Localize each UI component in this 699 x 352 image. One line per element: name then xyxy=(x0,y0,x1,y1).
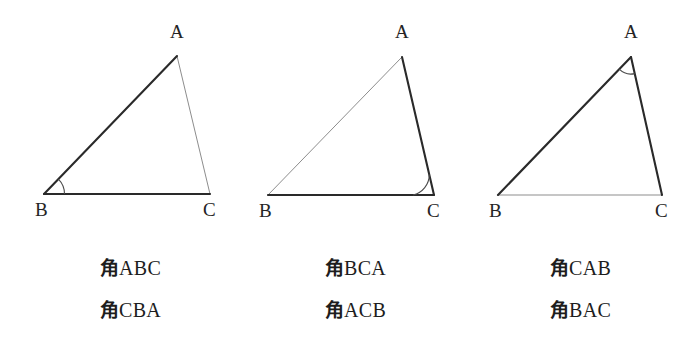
kaku-character: 角 xyxy=(550,299,569,321)
angle-arc-c xyxy=(413,175,429,196)
kaku-character: 角 xyxy=(100,299,119,321)
vertex-label-a: A xyxy=(170,22,184,41)
kaku-character: 角 xyxy=(550,257,569,279)
side-ac-thin xyxy=(177,56,210,194)
vertex-label-c: C xyxy=(203,200,216,219)
caption-angle-acb: 角ACB xyxy=(325,300,386,320)
vertex-label-b: B xyxy=(35,200,48,219)
angle-arc-a xyxy=(619,69,635,74)
triangle-angle-b xyxy=(0,0,233,230)
caption-letters: ABC xyxy=(119,257,161,279)
triangle-angle-a xyxy=(466,0,699,230)
vertex-label-a: A xyxy=(624,22,638,41)
caption-letters: ACB xyxy=(344,299,386,321)
caption-letters: CAB xyxy=(569,257,611,279)
vertex-label-c: C xyxy=(427,201,440,220)
caption-angle-cba: 角CBA xyxy=(100,300,161,320)
side-ac-thick xyxy=(631,57,662,195)
caption-letters: CBA xyxy=(119,299,161,321)
vertex-label-b: B xyxy=(259,201,272,220)
angle-naming-figure: A B C A B C A B C xyxy=(0,0,699,352)
caption-letters: BCA xyxy=(344,257,386,279)
caption-angle-cab: 角CAB xyxy=(550,258,611,278)
kaku-character: 角 xyxy=(325,257,344,279)
vertex-label-b: B xyxy=(489,201,502,220)
side-ba-thick xyxy=(44,56,177,194)
side-ab-thick xyxy=(498,57,631,195)
caption-angle-bac: 角BAC xyxy=(550,300,611,320)
vertex-label-a: A xyxy=(395,22,409,41)
caption-angle-abc: 角ABC xyxy=(100,258,161,278)
caption-angle-bca: 角BCA xyxy=(325,258,386,278)
side-ab-thin xyxy=(268,57,402,195)
caption-letters: BAC xyxy=(569,299,611,321)
kaku-character: 角 xyxy=(325,299,344,321)
kaku-character: 角 xyxy=(100,257,119,279)
triangle-angle-c xyxy=(233,0,466,230)
vertex-label-c: C xyxy=(655,201,668,220)
side-ca-thick xyxy=(402,57,434,195)
triangles-row: A B C A B C A B C xyxy=(0,0,699,230)
angle-arc-b xyxy=(58,179,64,194)
